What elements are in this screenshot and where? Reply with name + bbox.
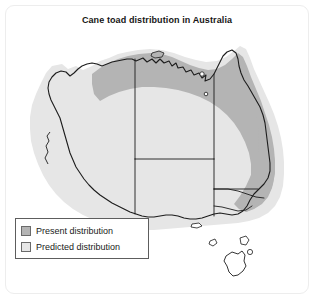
- page-title: Cane toad distribution in Australia: [6, 15, 308, 25]
- legend-item-predicted: Predicted distribution: [21, 239, 143, 255]
- present-distribution-swatch: [21, 226, 31, 236]
- small-island-east: [247, 249, 252, 254]
- figure-card: Cane toad distribution in Australia: [5, 5, 309, 294]
- groote-eylandt: [204, 92, 208, 96]
- predicted-distribution-swatch: [21, 242, 31, 252]
- legend-label-present: Present distribution: [36, 226, 113, 236]
- flinders-island: [240, 236, 249, 245]
- gulf-island-1: [200, 72, 204, 76]
- legend-item-present: Present distribution: [21, 223, 143, 239]
- legend: Present distribution Predicted distribut…: [15, 218, 149, 259]
- king-island: [209, 239, 217, 246]
- legend-label-predicted: Predicted distribution: [36, 242, 120, 252]
- tasmania-island: [224, 251, 246, 276]
